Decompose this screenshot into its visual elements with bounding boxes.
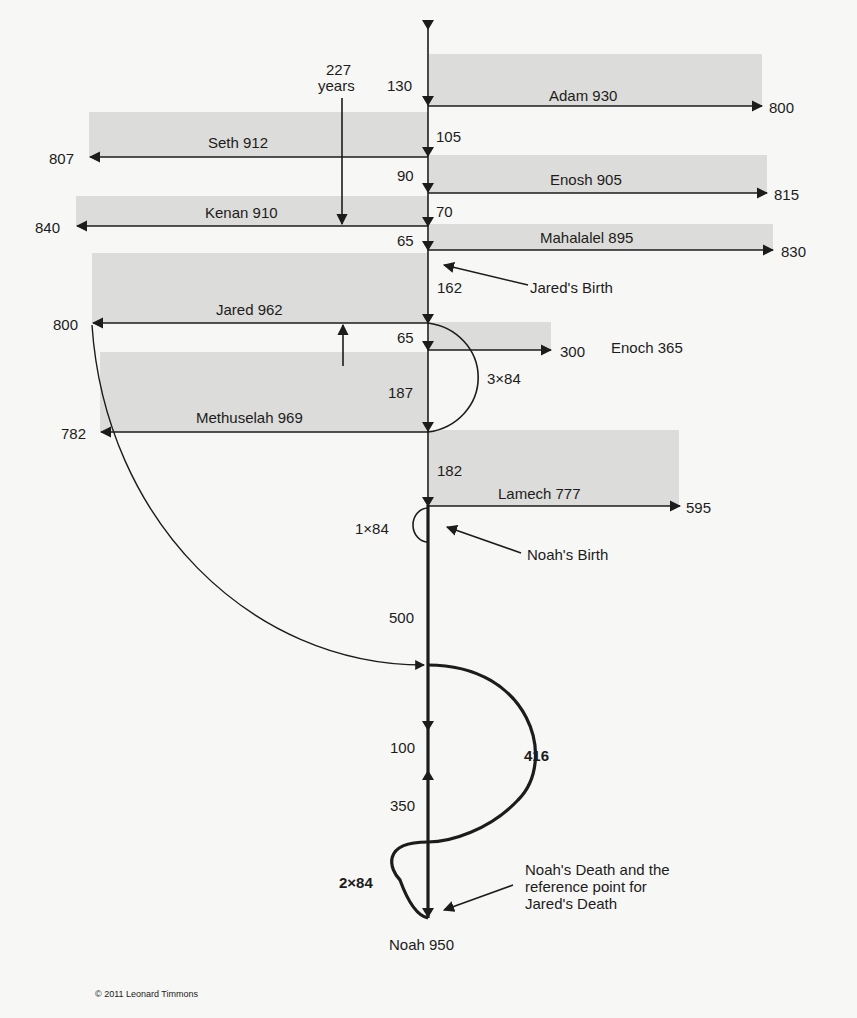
enoch-arc-label: 3×84 (487, 371, 521, 386)
interval-90: 90 (397, 168, 414, 183)
noah-birth-pointer (447, 527, 521, 553)
interval-65a: 65 (397, 233, 414, 248)
methuselah-end-value: 782 (61, 426, 86, 441)
enoch-end-value: 300 (560, 344, 585, 359)
span-227-unit: years (318, 78, 355, 93)
noah-death-annotation-line3: Jared's Death (525, 896, 617, 911)
noah-death-annotation-line2: reference point for (525, 879, 647, 894)
enoch-arc (428, 323, 478, 432)
interval-100: 100 (390, 740, 415, 755)
jared-end-value: 800 (53, 317, 78, 332)
timeline-diagram (0, 0, 857, 1018)
mahalalel-label: Mahalalel 895 (540, 230, 633, 245)
interval-70: 70 (436, 204, 453, 219)
methuselah-label: Methuselah 969 (196, 410, 303, 425)
copyright-text: © 2011 Leonard Timmons (95, 990, 198, 999)
noah-birth-arc-label: 1×84 (355, 521, 389, 536)
jared-label: Jared 962 (216, 302, 283, 317)
noah-birth-arc (413, 508, 428, 542)
lamech-end-value: 595 (686, 500, 711, 515)
noah-death-pointer (444, 885, 513, 910)
seth-label: Seth 912 (208, 135, 268, 150)
jared-long-arc (92, 325, 424, 665)
interval-500: 500 (389, 610, 414, 625)
enosh-end-value: 815 (774, 187, 799, 202)
interval-105: 105 (436, 129, 461, 144)
adam-label: Adam 930 (549, 88, 617, 103)
span-416-label: 416 (524, 748, 549, 763)
noah-death-arc-label: 2×84 (339, 875, 373, 890)
noah-label: Noah 950 (389, 937, 454, 952)
noah-birth-annotation: Noah's Birth (527, 547, 608, 562)
jared-birth-annotation: Jared's Birth (530, 280, 613, 295)
interval-182: 182 (437, 463, 462, 478)
enosh-label: Enosh 905 (550, 172, 622, 187)
interval-187: 187 (388, 385, 413, 400)
interval-65b: 65 (397, 330, 414, 345)
noah-death-annotation-line1: Noah's Death and the (525, 862, 670, 877)
span-227-label: 227 (326, 62, 351, 77)
noah-death-arc (392, 842, 428, 918)
lamech-label: Lamech 777 (498, 486, 581, 501)
kenan-label: Kenan 910 (205, 205, 278, 220)
span-416-arc (428, 665, 535, 842)
mahalalel-end-value: 830 (781, 244, 806, 259)
interval-350: 350 (390, 798, 415, 813)
adam-end-value: 800 (769, 100, 794, 115)
interval-130: 130 (387, 78, 412, 93)
seth-end-value: 807 (49, 151, 74, 166)
kenan-end-value: 840 (35, 220, 60, 235)
enoch-label: Enoch 365 (611, 340, 683, 355)
interval-162: 162 (437, 280, 462, 295)
